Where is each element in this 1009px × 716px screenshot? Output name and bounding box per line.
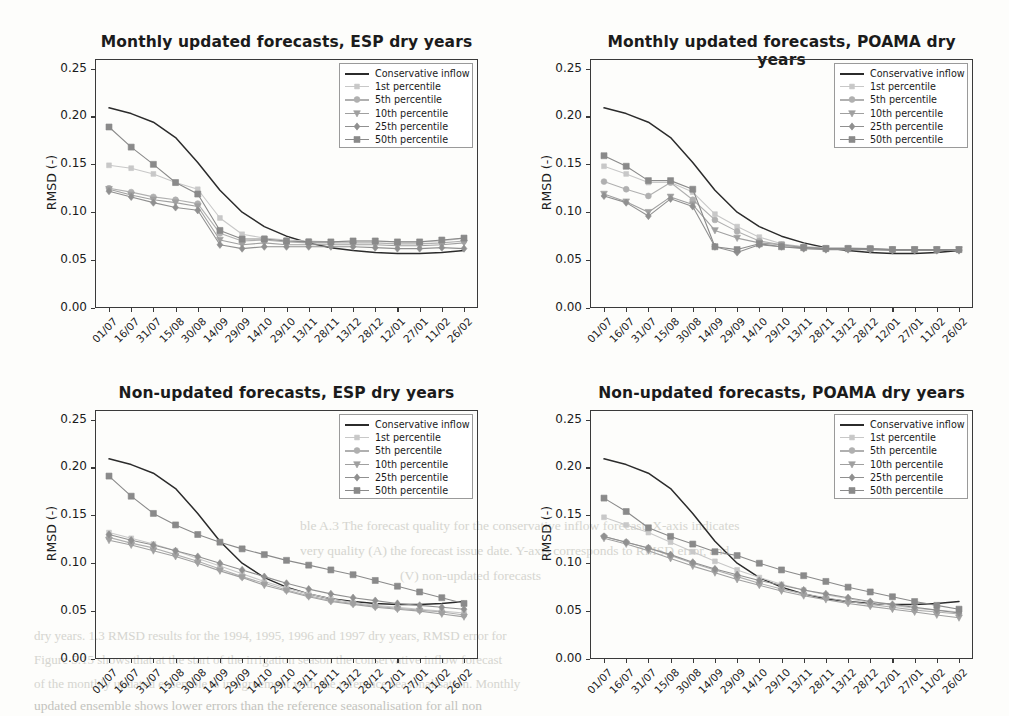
legend-marker-diamond-icon bbox=[839, 471, 865, 484]
legend-item[interactable]: 1st percentile bbox=[839, 431, 961, 444]
legend-marker-line-icon bbox=[839, 418, 865, 431]
plot-canvas bbox=[0, 0, 1009, 716]
legend-item[interactable]: 50th percentile bbox=[839, 484, 961, 497]
legend-item[interactable]: 5th percentile bbox=[839, 444, 961, 457]
chart-panel-4: Non-updated forecasts, POAMA dry yearsRM… bbox=[0, 0, 1009, 716]
legend-label: 25th percentile bbox=[870, 471, 943, 484]
legend-item[interactable]: Conservative inflow bbox=[839, 418, 961, 431]
series-10th-percentile bbox=[601, 536, 963, 622]
legend-label: 50th percentile bbox=[870, 484, 943, 497]
legend-label: 10th percentile bbox=[870, 458, 943, 471]
legend-item[interactable]: 25th percentile bbox=[839, 471, 961, 484]
legend-marker-square-icon bbox=[839, 431, 865, 444]
chart-legend: Conservative inflow1st percentile5th per… bbox=[834, 414, 968, 499]
legend-item[interactable]: 10th percentile bbox=[839, 458, 961, 471]
rmsd-figure: Monthly updated forecasts, ESP dry years… bbox=[0, 0, 1009, 716]
legend-label: Conservative inflow bbox=[870, 418, 965, 431]
legend-marker-circle-icon bbox=[839, 444, 865, 457]
legend-marker-square-icon bbox=[839, 484, 865, 497]
legend-label: 1st percentile bbox=[870, 431, 936, 444]
legend-label: 5th percentile bbox=[870, 444, 937, 457]
legend-marker-triangle-down-icon bbox=[839, 458, 865, 471]
